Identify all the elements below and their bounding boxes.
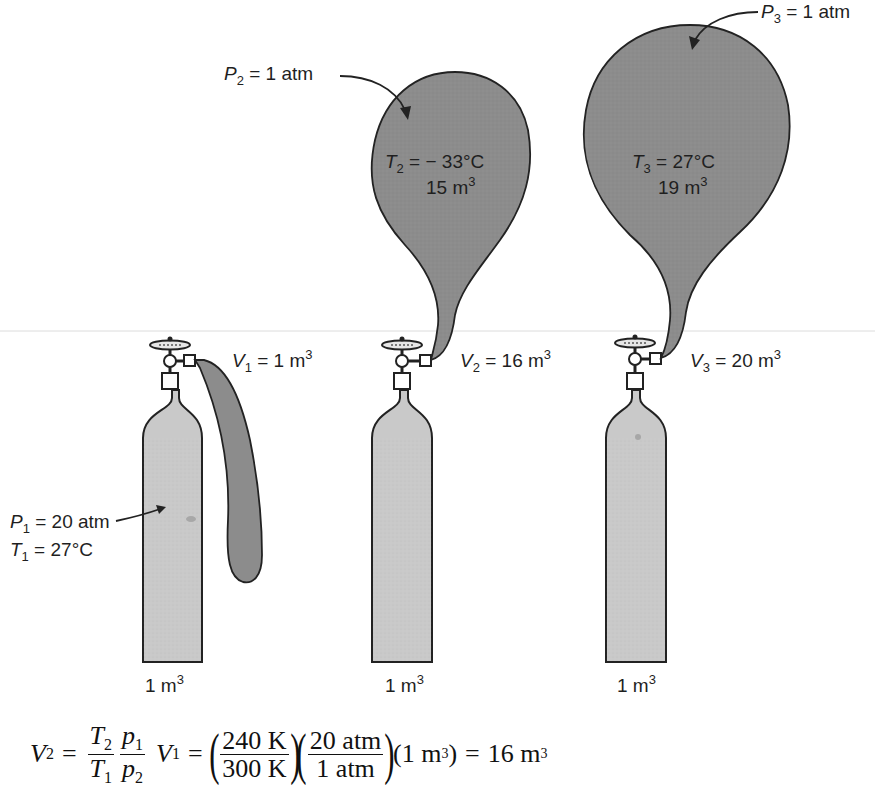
- b2-vol-text: 15 m: [426, 177, 468, 198]
- p3-value: = 1 atm: [781, 1, 850, 22]
- right-paren-2: ): [385, 726, 395, 782]
- balloon-2-volume-label: 15 m3: [426, 175, 475, 197]
- eq-lhs-var: V: [30, 739, 46, 769]
- v1-label: V1 = 1 m3: [232, 348, 312, 374]
- v1-sub: 1: [245, 360, 252, 375]
- p2-sub: 2: [237, 73, 244, 88]
- left-paren-2: (: [296, 726, 306, 782]
- p1-label: P1 = 20 atm: [10, 512, 110, 535]
- p3-label: P3 = 1 atm: [761, 2, 850, 25]
- cyl3-vol-exp: 3: [649, 672, 656, 687]
- t1-value: = 27°C: [29, 539, 93, 560]
- p2-value: = 1 atm: [244, 63, 313, 84]
- gas-expansion-diagram: [0, 0, 875, 790]
- eq-initial-volume-close: ): [448, 739, 457, 769]
- valve-3-icon: [615, 335, 661, 390]
- bag-1: [195, 360, 262, 582]
- t3-var: T: [632, 151, 644, 172]
- v2-label: V2 = 16 m3: [460, 348, 551, 374]
- v2-var: V: [460, 350, 473, 371]
- v3-label: V3 = 20 m3: [690, 348, 781, 374]
- fraction-p1-p2: p1 p2: [120, 722, 145, 787]
- f1-den-var: T: [90, 754, 104, 783]
- valve-2-icon: [382, 337, 431, 390]
- eq-v1-sub: 1: [172, 745, 180, 763]
- eq-initial-volume-exp: 3: [441, 746, 448, 762]
- p1-var: P: [10, 511, 23, 532]
- cyl1-vol-exp: 3: [177, 672, 184, 687]
- f2-num-sub: 1: [135, 736, 143, 753]
- fraction-t2-t1: T2 T1: [88, 722, 114, 787]
- b3-vol-text: 19 m: [658, 177, 700, 198]
- f4-den: 1 atm: [314, 755, 377, 782]
- f1-num-sub: 2: [104, 736, 112, 753]
- eq-lhs-sub: 2: [46, 745, 54, 763]
- v2-exp: 3: [544, 347, 551, 362]
- eq-result-exp: 3: [540, 746, 547, 762]
- v2-sub: 2: [473, 360, 480, 375]
- b3-vol-exp: 3: [700, 174, 707, 189]
- fraction-pressures: 20 atm 1 atm: [308, 727, 384, 783]
- cylinder-3: [584, 12, 790, 662]
- eq-initial-volume: (1 m: [393, 739, 441, 769]
- balloon-3-volume-label: 19 m3: [658, 175, 707, 197]
- f3-den: 300 K: [220, 755, 288, 782]
- eq-equals-2: =: [188, 739, 203, 769]
- t3-label: T3 = 27°C: [632, 152, 715, 175]
- cylinder-1-volume-label: 1 m3: [145, 673, 184, 695]
- v3-exp: 3: [774, 347, 781, 362]
- cyl3-vol-text: 1 m: [617, 675, 649, 696]
- p2-var: P: [224, 63, 237, 84]
- cylinder-2-volume-label: 1 m3: [385, 673, 424, 695]
- t2-label: T2 = − 33°C: [385, 152, 484, 175]
- f1-den-sub: 1: [104, 769, 112, 786]
- v3-var: V: [690, 350, 703, 371]
- p3-sub: 3: [774, 11, 781, 26]
- v2-value: = 16 m: [480, 350, 544, 371]
- t3-sub: 3: [644, 161, 651, 176]
- p3-var: P: [761, 1, 774, 22]
- t3-value: = 27°C: [651, 151, 715, 172]
- left-paren-1: (: [209, 726, 219, 782]
- cylinder-3-volume-label: 1 m3: [617, 673, 656, 695]
- eq-equals-1: =: [62, 739, 77, 769]
- t1-sub: 1: [22, 549, 29, 564]
- v3-sub: 3: [703, 360, 710, 375]
- v1-var: V: [232, 350, 245, 371]
- v1-exp: 3: [305, 347, 312, 362]
- t2-value: = − 33°C: [404, 151, 484, 172]
- eq-v1-var: V: [156, 739, 172, 769]
- cyl2-vol-exp: 3: [417, 672, 424, 687]
- valve-1-icon: [150, 337, 195, 390]
- f3-num: 240 K: [220, 727, 288, 755]
- f2-den-var: p: [122, 754, 135, 783]
- p2-label: P2 = 1 atm: [224, 64, 313, 87]
- b2-vol-exp: 3: [468, 174, 475, 189]
- t2-sub: 2: [397, 161, 404, 176]
- t1-var: T: [10, 539, 22, 560]
- combined-gas-law-equation: V2 = T2 T1 p1 p2 V1 = ( 240 K 300 K ) ( …: [30, 722, 547, 787]
- f2-num-var: p: [122, 721, 135, 750]
- v3-value: = 20 m: [710, 350, 774, 371]
- f2-den-sub: 2: [135, 769, 143, 786]
- cyl1-vol-text: 1 m: [145, 675, 177, 696]
- p1-sub: 1: [23, 521, 30, 536]
- eq-result: 16 m: [488, 739, 541, 769]
- t2-var: T: [385, 151, 397, 172]
- f1-num-var: T: [90, 721, 104, 750]
- cyl2-vol-text: 1 m: [385, 675, 417, 696]
- p1-value: = 20 atm: [30, 511, 110, 532]
- cylinder-1: [116, 337, 262, 663]
- eq-equals-3: =: [465, 739, 480, 769]
- fraction-temperatures: 240 K 300 K: [220, 727, 288, 783]
- t1-label: T1 = 27°C: [10, 540, 93, 563]
- f4-num: 20 atm: [308, 727, 384, 755]
- v1-value: = 1 m: [252, 350, 305, 371]
